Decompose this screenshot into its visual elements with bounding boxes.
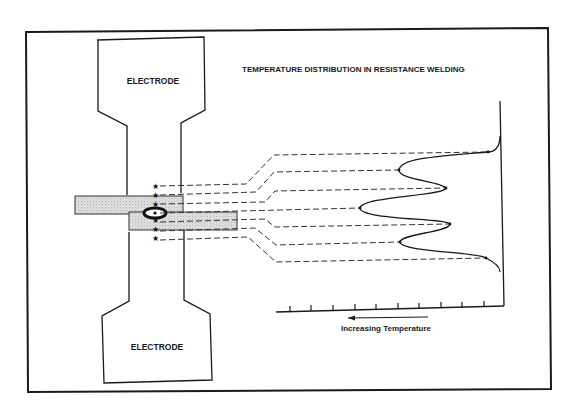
leader-lines xyxy=(160,152,488,262)
bottom-electrode-label: ELECTRODE xyxy=(131,342,184,352)
diagram-canvas: ★ ★ ★ ★ ★ ★ xyxy=(0,0,574,417)
arrow-left-icon xyxy=(348,316,428,321)
temperature-curve xyxy=(360,136,500,272)
star-icon: ★ xyxy=(152,234,159,243)
star-icon: ★ xyxy=(152,191,159,200)
axis-label: Increasing Temperature xyxy=(341,324,432,333)
diagram-title: TEMPERATURE DISTRIBUTION IN RESISTANCE W… xyxy=(242,65,465,74)
bottom-electrode xyxy=(102,230,212,383)
top-electrode xyxy=(97,37,205,195)
star-icon: ★ xyxy=(152,225,159,234)
top-electrode-label: ELECTRODE xyxy=(127,76,180,86)
star-icon: ★ xyxy=(152,200,159,209)
star-icon: ★ xyxy=(152,216,159,225)
vertical-axis xyxy=(500,101,504,306)
star-icon: ★ xyxy=(152,182,159,191)
temperature-axis xyxy=(276,306,504,312)
